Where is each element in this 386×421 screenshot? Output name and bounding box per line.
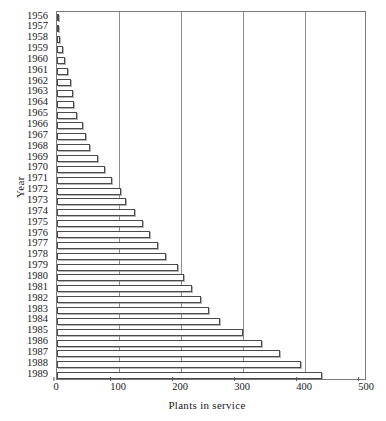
x-tick-200: 200 <box>172 381 188 392</box>
bar-row <box>57 370 322 381</box>
bar-row <box>57 23 59 34</box>
bar-1964[interactable] <box>57 101 74 108</box>
bar-1973[interactable] <box>57 198 126 205</box>
bar-1982[interactable] <box>57 296 201 303</box>
y-tick-1961: 1961 <box>27 65 48 76</box>
bar-row <box>57 272 184 283</box>
bar-1979[interactable] <box>57 264 178 271</box>
bar-row <box>57 305 209 316</box>
bar-row <box>57 283 192 294</box>
x-axis-tick-labels: 0100200300400500 <box>56 381 366 397</box>
bar-1956[interactable] <box>57 14 59 21</box>
x-tick-mark <box>110 377 111 381</box>
x-tick-mark <box>172 377 173 381</box>
bar-1969[interactable] <box>57 155 98 162</box>
bar-row <box>57 218 143 229</box>
x-axis-title: Plants in service <box>0 399 386 411</box>
bar-row <box>57 207 135 218</box>
bar-1970[interactable] <box>57 166 105 173</box>
bar-row <box>57 77 71 88</box>
bar-row <box>57 55 65 66</box>
bar-row <box>57 131 86 142</box>
bar-1958[interactable] <box>57 36 60 43</box>
bar-1971[interactable] <box>57 177 112 184</box>
y-axis-tick-labels: 1956195719581959196019611962196319641965… <box>0 11 52 380</box>
bar-row <box>57 348 280 359</box>
bar-row <box>57 240 158 251</box>
bar-1968[interactable] <box>57 144 90 151</box>
x-tick-mark <box>296 377 297 381</box>
bar-row <box>57 327 243 338</box>
bar-row <box>57 251 166 262</box>
x-tick-0: 0 <box>53 381 58 392</box>
bar-1959[interactable] <box>57 46 63 53</box>
y-tick-1988: 1988 <box>27 358 48 369</box>
bar-row <box>57 12 59 23</box>
y-tick-1968: 1968 <box>27 141 48 152</box>
bar-row <box>57 34 60 45</box>
bar-row <box>57 186 121 197</box>
bar-row <box>57 262 178 273</box>
bar-row <box>57 229 150 240</box>
bar-1987[interactable] <box>57 350 280 357</box>
y-tick-1989: 1989 <box>27 369 48 380</box>
bar-row <box>57 121 83 132</box>
bars-group <box>57 12 365 379</box>
bar-1957[interactable] <box>57 25 59 32</box>
bar-row <box>57 66 68 77</box>
x-tick-500: 500 <box>358 381 374 392</box>
bar-row <box>57 175 112 186</box>
bar-row <box>57 294 201 305</box>
x-tick-400: 400 <box>296 381 312 392</box>
bar-1986[interactable] <box>57 340 262 347</box>
bar-1975[interactable] <box>57 220 143 227</box>
bar-1961[interactable] <box>57 68 68 75</box>
bar-row <box>57 142 90 153</box>
x-tick-mark <box>358 377 359 381</box>
bar-1978[interactable] <box>57 253 166 260</box>
bar-1967[interactable] <box>57 133 86 140</box>
x-tick-300: 300 <box>234 381 250 392</box>
bar-1980[interactable] <box>57 274 184 281</box>
bar-1972[interactable] <box>57 188 121 195</box>
bar-row <box>57 45 63 56</box>
x-tick-mark <box>234 377 235 381</box>
bar-1985[interactable] <box>57 329 243 336</box>
bar-row <box>57 359 301 370</box>
x-tick-100: 100 <box>110 381 126 392</box>
bar-1981[interactable] <box>57 285 192 292</box>
bar-row <box>57 197 126 208</box>
bar-1988[interactable] <box>57 361 301 368</box>
x-tick-mark <box>53 377 54 381</box>
bar-row <box>57 110 77 121</box>
y-tick-1975: 1975 <box>27 217 48 228</box>
plot-area <box>56 11 366 380</box>
bar-1962[interactable] <box>57 79 71 86</box>
bar-row <box>57 338 262 349</box>
bar-1984[interactable] <box>57 318 220 325</box>
bar-row <box>57 164 105 175</box>
bar-row <box>57 316 220 327</box>
bar-1976[interactable] <box>57 231 150 238</box>
bar-1966[interactable] <box>57 122 83 129</box>
bar-row <box>57 99 74 110</box>
y-tick-1982: 1982 <box>27 293 48 304</box>
bar-1974[interactable] <box>57 209 135 216</box>
bar-1983[interactable] <box>57 307 209 314</box>
bar-row <box>57 153 98 164</box>
bar-1989[interactable] <box>57 372 322 379</box>
bar-1963[interactable] <box>57 90 73 97</box>
bar-chart: Year 19561957195819591960196119621963196… <box>0 0 386 421</box>
bar-1965[interactable] <box>57 112 77 119</box>
bar-1977[interactable] <box>57 242 158 249</box>
bar-row <box>57 88 73 99</box>
bar-1960[interactable] <box>57 57 65 64</box>
